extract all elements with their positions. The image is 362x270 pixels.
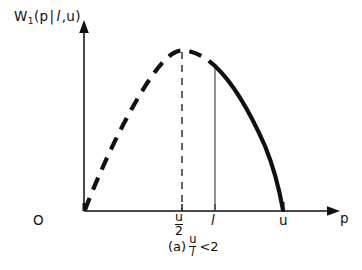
y-axis-label-comma-u: ,u <box>62 8 76 24</box>
caption-fraction-numerator: u <box>189 234 196 246</box>
x-axis-arrowhead <box>327 206 340 216</box>
origin-label: O <box>33 214 44 228</box>
y-axis-label: W1(p|l,u) <box>14 10 81 26</box>
tick-label-l: l <box>211 214 215 228</box>
caption-index: (a) <box>168 240 186 253</box>
figure-caption: (a) u l <2 <box>168 234 219 258</box>
y-axis-label-main: W <box>14 8 28 24</box>
fraction-numerator: u <box>175 211 183 224</box>
caption-fraction-u-over-l: u l <box>189 234 196 258</box>
curve-dashed-branch <box>85 51 215 211</box>
curve-solid-branch <box>215 66 283 210</box>
y-axis-label-open: (p <box>34 8 49 24</box>
caption-fraction-denominator: l <box>189 246 196 259</box>
caption-relation: <2 <box>199 240 218 253</box>
x-axis-label: p <box>340 212 349 226</box>
y-axis-label-close: ) <box>75 8 81 24</box>
tick-label-u: u <box>279 214 288 228</box>
